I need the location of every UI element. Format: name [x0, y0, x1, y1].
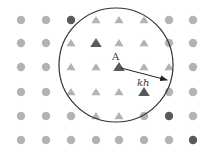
circle-marker [42, 16, 50, 24]
neighborhood-diagram: A kh [0, 0, 208, 158]
circle-marker [165, 136, 173, 144]
triangle-marker [66, 39, 75, 46]
circle-marker [67, 136, 75, 144]
circle-marker [42, 88, 50, 96]
circle-marker [17, 16, 25, 24]
triangle-marker [114, 88, 123, 95]
circle-marker [67, 112, 75, 120]
circle-marker [17, 112, 25, 120]
circle-marker [17, 63, 25, 71]
dark-circle-marker [67, 16, 75, 24]
triangle-marker [114, 112, 123, 119]
triangle-marker [66, 63, 75, 70]
circle-marker [115, 136, 123, 144]
triangle-marker [139, 39, 148, 46]
dark-circle-marker [189, 136, 197, 144]
triangle-marker [91, 88, 100, 95]
point-a-label: A [111, 51, 120, 62]
radius-label: kh [137, 77, 150, 88]
circle-marker [165, 16, 173, 24]
circle-marker [42, 112, 50, 120]
triangle-marker [114, 39, 123, 46]
circle-marker [140, 136, 148, 144]
circle-marker [189, 112, 197, 120]
circle-marker [42, 136, 50, 144]
triangle-marker [91, 16, 100, 23]
neighborhood-circle [59, 8, 173, 122]
circle-marker [189, 63, 197, 71]
circle-marker [189, 39, 197, 47]
dark-circle-marker [165, 112, 173, 120]
circle-marker [189, 16, 197, 24]
dark-triangle-marker [90, 38, 102, 47]
circle-marker [92, 136, 100, 144]
circle-marker [17, 39, 25, 47]
dark-triangle-marker [138, 87, 150, 96]
triangle-marker [91, 63, 100, 70]
triangle-marker [164, 63, 173, 70]
triangle-marker [66, 88, 75, 95]
circle-marker [42, 63, 50, 71]
triangle-marker [139, 63, 148, 70]
triangle-marker [114, 16, 123, 23]
dark-triangle-marker [113, 62, 125, 71]
circle-marker [17, 88, 25, 96]
circle-marker [189, 88, 197, 96]
grid-markers [17, 16, 197, 144]
circle-marker [17, 136, 25, 144]
circle-marker [42, 39, 50, 47]
